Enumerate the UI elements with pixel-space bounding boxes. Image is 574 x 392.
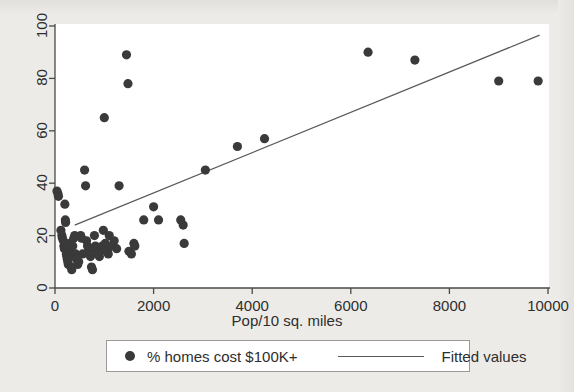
chart-legend: % homes cost $100K+ Fitted values xyxy=(106,340,470,372)
scatter-plot-figure: 020406080100 0200040006000800010000 Pop/… xyxy=(0,0,574,392)
data-point xyxy=(60,200,69,209)
y-tick-label: 40 xyxy=(33,161,50,205)
data-point xyxy=(139,215,148,224)
data-point xyxy=(112,244,121,253)
data-point xyxy=(233,142,242,151)
y-tick-label: 80 xyxy=(33,56,50,100)
data-point xyxy=(114,181,123,190)
y-tick-label: 20 xyxy=(33,213,50,257)
data-point xyxy=(81,181,90,190)
data-point xyxy=(494,76,503,85)
data-point xyxy=(88,265,97,274)
data-point xyxy=(54,192,63,201)
legend-point-marker-icon xyxy=(125,351,135,361)
chart-canvas xyxy=(0,0,574,392)
data-point xyxy=(123,79,132,88)
data-point xyxy=(80,166,89,175)
y-tick-label: 100 xyxy=(33,4,50,48)
data-point xyxy=(104,249,113,258)
data-point xyxy=(201,166,210,175)
legend-line-sample-icon xyxy=(338,356,424,357)
legend-label-scatter: % homes cost $100K+ xyxy=(147,348,298,365)
data-point xyxy=(68,241,77,250)
data-point xyxy=(90,231,99,240)
data-point xyxy=(122,50,131,59)
fitted-values-line xyxy=(75,35,540,225)
data-point xyxy=(127,249,136,258)
data-point xyxy=(534,76,543,85)
x-axis-title: Pop/10 sq. miles xyxy=(0,312,574,329)
legend-entry-scatter: % homes cost $100K+ xyxy=(125,348,298,365)
fit-line xyxy=(75,35,540,225)
data-point xyxy=(110,236,119,245)
legend-entry-line: Fitted values xyxy=(338,348,527,365)
data-point xyxy=(130,241,139,250)
data-point xyxy=(100,113,109,122)
data-point xyxy=(260,134,269,143)
data-point xyxy=(410,55,419,64)
data-point xyxy=(61,218,70,227)
data-point xyxy=(154,215,163,224)
data-point xyxy=(363,48,372,57)
tick-marks xyxy=(49,26,548,294)
scatter-points xyxy=(52,48,542,275)
legend-label-line: Fitted values xyxy=(442,348,527,365)
data-point xyxy=(74,257,83,266)
data-point xyxy=(149,202,158,211)
y-tick-label: 60 xyxy=(33,108,50,152)
data-point xyxy=(180,239,189,248)
data-point xyxy=(179,221,188,230)
